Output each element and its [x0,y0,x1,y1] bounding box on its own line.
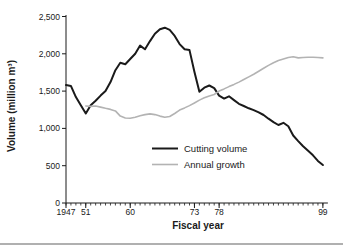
x-tick-label: 51 [81,207,91,217]
y-axis-title: Volume (million m³) [6,60,17,152]
y-tick-label: 1,000 [39,123,61,133]
x-tick-label: 1947 [57,207,76,217]
y-tick-label: 1,500 [39,86,61,96]
x-tick-label: 99 [318,207,328,217]
line-chart: 05001,0001,5002,0002,50019475160737899 V… [0,0,343,249]
y-tick-label: 500 [46,161,60,171]
x-tick-label: 60 [125,207,135,217]
chart-page: 05001,0001,5002,0002,50019475160737899 V… [0,0,343,249]
y-tick-label: 2,500 [39,12,61,22]
legend-label-cutting-volume: Cutting volume [184,143,247,154]
x-tick-label: 78 [214,207,224,217]
legend: Cutting volume Annual growth [152,143,247,170]
y-tick-label: 2,000 [39,49,61,59]
plot-area: 05001,0001,5002,0002,50019475160737899 [39,12,328,218]
x-tick-label: 73 [190,207,200,217]
x-axis-title: Fiscal year [172,220,224,231]
legend-label-annual-growth: Annual growth [184,159,245,170]
